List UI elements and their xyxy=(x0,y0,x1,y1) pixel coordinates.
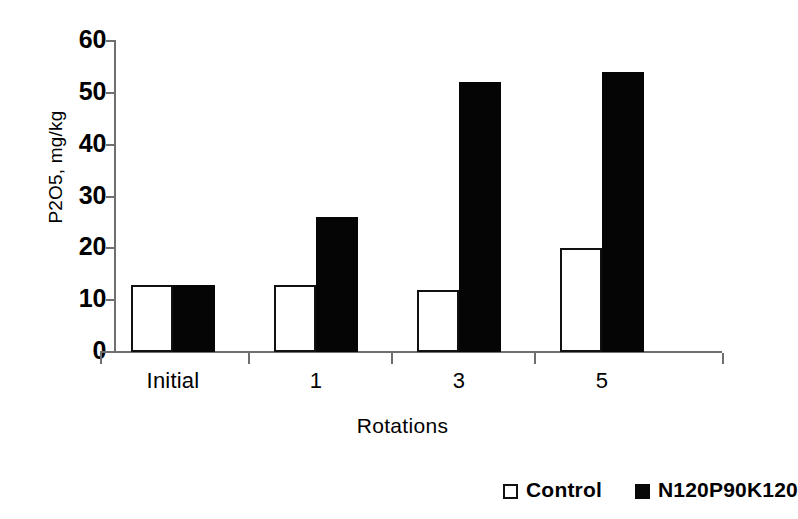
x-axis-tick-mark xyxy=(722,353,724,364)
x-axis-title: Rotations xyxy=(0,414,777,438)
x-axis-category-label: 3 xyxy=(399,368,519,394)
x-axis-category-label: Initial xyxy=(113,368,233,394)
x-axis-category-label: 1 xyxy=(256,368,376,394)
y-axis-tick-label: 20 xyxy=(62,234,106,259)
bar-n120p90k120-1 xyxy=(316,217,358,352)
filled-square-marker xyxy=(635,484,650,499)
legend-item: Control xyxy=(503,478,602,502)
y-axis-tick-label: 60 xyxy=(62,27,106,52)
x-axis-category-label: 5 xyxy=(542,368,662,394)
y-axis-tick-label: 10 xyxy=(62,286,106,311)
x-axis-tick-mark xyxy=(248,353,250,364)
legend-item: N120P90K120 xyxy=(635,478,798,502)
y-axis-tick-label: 30 xyxy=(62,183,106,208)
open-square-marker xyxy=(503,484,518,499)
x-axis-tick-mark xyxy=(391,353,393,364)
legend-item-label: N120P90K120 xyxy=(658,478,798,502)
chart-legend: ControlN120P90K120 xyxy=(0,478,777,510)
bar-n120p90k120-3 xyxy=(459,82,501,352)
x-axis-title-text: Rotations xyxy=(357,414,448,437)
bar-n120p90k120-initial xyxy=(173,285,215,352)
bar-n120p90k120-5 xyxy=(602,72,644,352)
y-axis-tick-label: 50 xyxy=(62,79,106,104)
bar-control-1 xyxy=(274,285,316,352)
legend-item-label: Control xyxy=(526,478,602,502)
x-axis-tick-mark xyxy=(534,353,536,364)
x-axis-tick-mark xyxy=(100,353,102,364)
plot-area xyxy=(115,41,720,352)
y-axis-tick-label: 40 xyxy=(62,131,106,156)
bar-control-3 xyxy=(417,290,459,352)
bar-control-initial xyxy=(131,285,173,352)
bar-control-5 xyxy=(560,248,602,352)
